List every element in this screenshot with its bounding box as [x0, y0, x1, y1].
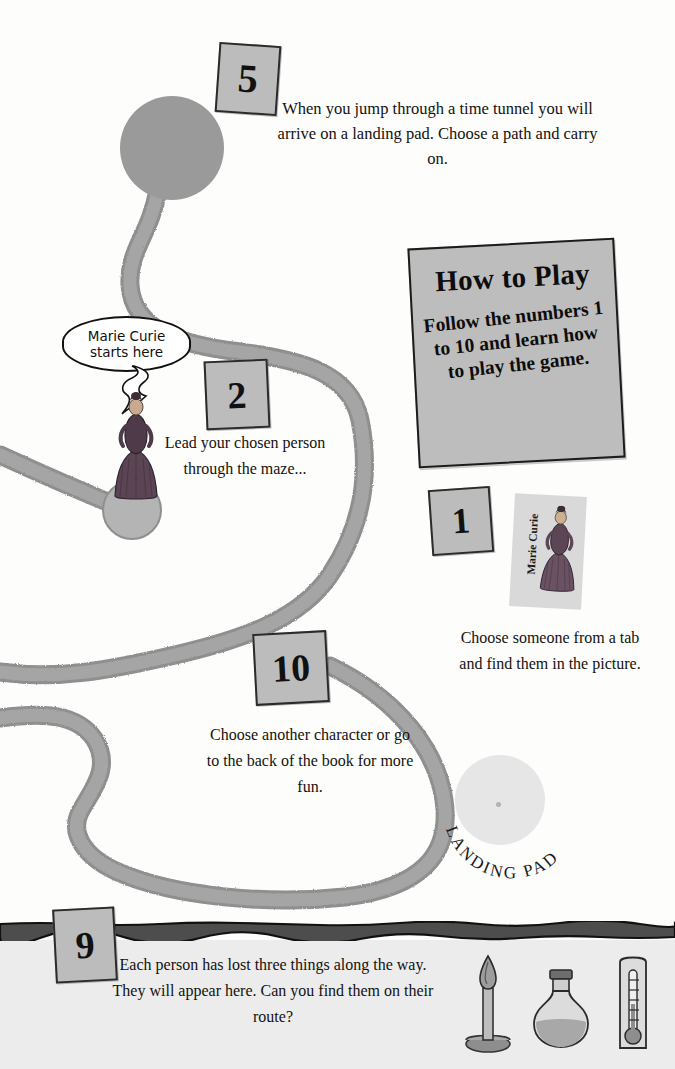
- step-tile-9-number: 9: [75, 926, 96, 965]
- step-tile-10[interactable]: 10: [252, 630, 330, 706]
- step-tile-5-number: 5: [237, 58, 260, 99]
- character-tab-card[interactable]: Marie Curie: [509, 493, 587, 610]
- speech-line-1: Marie Curie: [88, 328, 165, 344]
- thermometer-icon: [620, 958, 646, 1049]
- how-to-play-panel: How to Play Follow the numbers 1 to 10 a…: [407, 238, 625, 469]
- svg-text:LANDING PAD: LANDING PAD: [442, 823, 563, 882]
- flask-icon: [534, 970, 588, 1047]
- step-tile-10-number: 10: [271, 648, 311, 688]
- step-tile-9[interactable]: 9: [52, 906, 118, 983]
- step-tile-2[interactable]: 2: [204, 359, 271, 431]
- how-to-play-body: Follow the numbers 1 to 10 and learn how…: [411, 295, 620, 388]
- lost-items-row: [460, 948, 660, 1058]
- step-tile-1[interactable]: 1: [428, 486, 494, 556]
- step-text-2: Lead your chosen person through the maze…: [160, 430, 330, 482]
- candle-icon: [466, 956, 510, 1052]
- step-tile-5[interactable]: 5: [215, 42, 282, 116]
- step-text-10: Choose another character or go to the ba…: [205, 722, 415, 800]
- step-text-9: Each person has lost three things along …: [108, 952, 438, 1030]
- character-figure: [112, 392, 160, 512]
- step-tile-1-number: 1: [451, 502, 471, 539]
- how-to-play-title: How to Play: [410, 256, 614, 300]
- speech-line-2: starts here: [90, 344, 163, 360]
- speech-bubble-text: Marie Curie starts here: [88, 328, 165, 360]
- step-tile-2-number: 2: [227, 375, 248, 414]
- step-text-1: Choose someone from a tab and find them …: [450, 625, 650, 677]
- landing-pad-label-text: LANDING PAD: [442, 823, 563, 882]
- landing-pad-label: LANDING PAD: [438, 780, 588, 890]
- maze-game-page: Marie Curie starts here 5 2 1 10 9 When …: [0, 0, 675, 1069]
- character-tab-card-figure: [535, 505, 582, 603]
- time-tunnel-circle: [120, 96, 224, 200]
- step-text-5: When you jump through a time tunnel you …: [275, 96, 600, 171]
